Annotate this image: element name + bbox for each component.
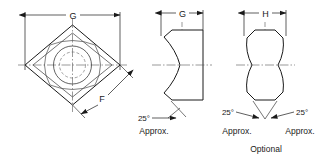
angle-leader-side-right <box>271 112 294 118</box>
side-view: H 25° Approx. 25° Approx. Optional <box>222 9 315 155</box>
angle-leader-side-left <box>236 112 259 118</box>
plan-view: G F <box>18 11 133 119</box>
dimension-label-g-plan: G <box>69 11 76 21</box>
angle-label-side-right: 25° <box>296 108 308 117</box>
dimension-line-f-lower <box>81 105 98 114</box>
engineering-drawing-canvas: G F G <box>0 0 325 160</box>
front-view: G 25° Approx. <box>138 9 212 137</box>
dimension-line-f-upper <box>108 74 129 95</box>
optional-caption: Optional <box>250 144 282 154</box>
angle-label-front: 25° <box>138 114 150 123</box>
extension-line-f-lower <box>73 105 86 118</box>
dimension-label-g-front: G <box>179 9 186 19</box>
chamfer-reference-side-left <box>253 101 265 119</box>
approx-label-front: Approx. <box>139 126 168 136</box>
chamfer-reference-front <box>171 101 186 117</box>
dimension-label-h-side: H <box>262 9 269 19</box>
chamfer-leader-front <box>168 108 180 118</box>
approx-label-side-right: Approx. <box>285 126 314 136</box>
chamfer-reference-side-right <box>265 101 277 119</box>
dimension-label-f-plan: F <box>99 94 105 104</box>
angle-label-side-left: 25° <box>222 108 234 117</box>
approx-label-side-left: Approx. <box>222 126 251 136</box>
